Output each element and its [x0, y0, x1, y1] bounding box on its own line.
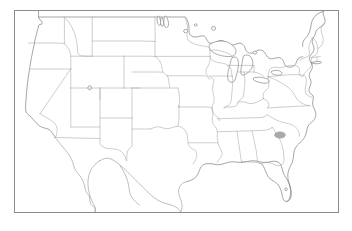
- lake-nipigon: [212, 26, 216, 30]
- map-canvas: [0, 0, 352, 231]
- georgian-bay-inlet: [253, 51, 257, 54]
- south-carolina-highlight: [275, 132, 286, 138]
- lake-of-the-woods: [184, 29, 188, 32]
- map-frame: [15, 11, 339, 213]
- lake-okeechobee: [285, 188, 288, 191]
- canadian-small-lake-a: [194, 24, 197, 26]
- screenshot-root: Blank outline map of the contiguous Unit…: [0, 0, 352, 231]
- us-outline-map-figure: [0, 0, 352, 231]
